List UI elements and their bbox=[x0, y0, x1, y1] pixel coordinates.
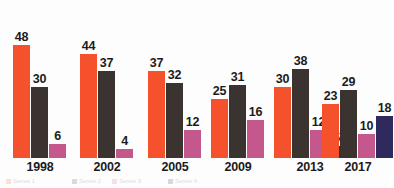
bar-rect[interactable] bbox=[116, 149, 133, 158]
bar[interactable]: 37 bbox=[98, 0, 115, 158]
x-tick-label: 2005 bbox=[161, 160, 188, 174]
bar-value-label: 6 bbox=[54, 129, 61, 143]
bar-rect[interactable] bbox=[322, 104, 339, 158]
bar-group-bars: 44374 bbox=[80, 0, 134, 158]
x-tick-label: 2013 bbox=[296, 160, 323, 174]
bar-value-label: 48 bbox=[15, 30, 28, 44]
bar-rect[interactable] bbox=[49, 144, 66, 158]
bar-value-label: 44 bbox=[82, 39, 95, 53]
bar-rect[interactable] bbox=[292, 69, 309, 158]
bar-group-bars: 23291018 bbox=[322, 0, 394, 158]
bar-group-bars: 373212 bbox=[148, 0, 202, 158]
legend-label: Series 2 bbox=[79, 178, 101, 185]
legend-label: Series 3 bbox=[119, 178, 141, 185]
bar-group-bars: 253116 bbox=[211, 0, 265, 158]
bar-value-label: 10 bbox=[360, 119, 373, 133]
bar-rect[interactable] bbox=[184, 130, 201, 158]
bar-group: 253116 bbox=[211, 0, 265, 158]
legend-entry: Series 4 bbox=[168, 178, 197, 185]
legend-label: Series 4 bbox=[175, 178, 197, 185]
legend-swatch bbox=[112, 179, 117, 184]
bar[interactable]: 12 bbox=[184, 0, 201, 158]
bar-value-label: 37 bbox=[150, 56, 163, 70]
bar[interactable]: 10 bbox=[358, 0, 375, 158]
legend-entry: Series 1 bbox=[6, 178, 35, 185]
legend-swatch bbox=[6, 179, 11, 184]
bar-value-label: 29 bbox=[342, 75, 355, 89]
bar-value-label: 12 bbox=[186, 115, 199, 129]
bar-group-bars: 48306 bbox=[13, 0, 67, 158]
x-tick-label: 1998 bbox=[26, 160, 53, 174]
legend-entry: Series 3 bbox=[112, 178, 141, 185]
bar-value-label: 25 bbox=[213, 84, 226, 98]
bar-value-label: 23 bbox=[324, 89, 337, 103]
chart-legend: Series 1Series 2Series 3Series 4 bbox=[0, 178, 389, 188]
bar[interactable]: 25 bbox=[211, 0, 228, 158]
bar-group: 373212 bbox=[148, 0, 202, 158]
bar-rect[interactable] bbox=[274, 87, 291, 158]
legend-label: Series 1 bbox=[13, 178, 35, 185]
legend-swatch bbox=[168, 179, 173, 184]
legend-swatch bbox=[72, 179, 77, 184]
bar-rect[interactable] bbox=[98, 71, 115, 158]
bar-rect[interactable] bbox=[13, 45, 30, 158]
bar-rect[interactable] bbox=[211, 99, 228, 158]
bar-rect[interactable] bbox=[358, 134, 375, 158]
bar[interactable]: 4 bbox=[116, 0, 133, 158]
bar-value-label: 37 bbox=[100, 56, 113, 70]
x-tick-label: 2017 bbox=[344, 160, 371, 174]
bar[interactable]: 30 bbox=[274, 0, 291, 158]
bar[interactable]: 30 bbox=[31, 0, 48, 158]
bar-value-label: 16 bbox=[249, 105, 262, 119]
bar-value-label: 31 bbox=[231, 70, 244, 84]
bar-rect[interactable] bbox=[229, 85, 246, 158]
bar-group: 23291018 bbox=[322, 0, 394, 158]
bar[interactable]: 48 bbox=[13, 0, 30, 158]
bar[interactable]: 44 bbox=[80, 0, 97, 158]
bar[interactable]: 32 bbox=[166, 0, 183, 158]
bar[interactable]: 38 bbox=[292, 0, 309, 158]
bar-value-label: 32 bbox=[168, 68, 181, 82]
bar[interactable]: 31 bbox=[229, 0, 246, 158]
x-axis: 199820022005200920132017 bbox=[0, 158, 389, 176]
x-tick-label: 2002 bbox=[93, 160, 120, 174]
x-tick-label: 2009 bbox=[224, 160, 251, 174]
bar-value-label: 30 bbox=[33, 72, 46, 86]
bar-rect[interactable] bbox=[376, 116, 393, 158]
bar-rect[interactable] bbox=[166, 83, 183, 158]
bar-rect[interactable] bbox=[80, 54, 97, 158]
bar[interactable]: 23 bbox=[322, 0, 339, 158]
bar-rect[interactable] bbox=[340, 90, 357, 158]
legend-entry: Series 2 bbox=[72, 178, 101, 185]
bar-group: 48306 bbox=[13, 0, 67, 158]
plot-area: 4830644374373212253116303812523291018 bbox=[0, 0, 389, 158]
bar-group: 44374 bbox=[80, 0, 134, 158]
bar[interactable]: 18 bbox=[376, 0, 393, 158]
bar[interactable]: 37 bbox=[148, 0, 165, 158]
bar[interactable]: 29 bbox=[340, 0, 357, 158]
bar-rect[interactable] bbox=[247, 120, 264, 158]
bar-value-label: 4 bbox=[121, 134, 128, 148]
bar-value-label: 18 bbox=[378, 101, 391, 115]
bar-rect[interactable] bbox=[31, 87, 48, 158]
bar-rect[interactable] bbox=[148, 71, 165, 158]
bar[interactable]: 16 bbox=[247, 0, 264, 158]
bar[interactable]: 6 bbox=[49, 0, 66, 158]
bar-value-label: 30 bbox=[276, 72, 289, 86]
bar-value-label: 38 bbox=[294, 54, 307, 68]
